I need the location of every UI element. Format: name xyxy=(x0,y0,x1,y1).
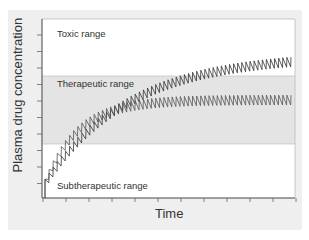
therapeutic-range-label: Therapeutic range xyxy=(57,78,134,89)
y-axis-label: Plasma drug concentration xyxy=(10,43,25,173)
toxic-range-label: Toxic range xyxy=(57,28,106,39)
x-axis-label: Time xyxy=(155,206,183,221)
subtherapeutic-range-label: Subtherapeutic range xyxy=(57,180,148,191)
chart-plot xyxy=(0,0,309,240)
